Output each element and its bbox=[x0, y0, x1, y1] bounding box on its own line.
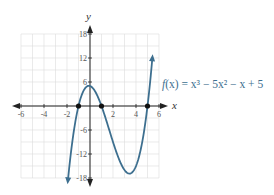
root-point bbox=[145, 103, 150, 108]
x-tick-label: -2 bbox=[64, 110, 71, 119]
y-tick-label: 18 bbox=[79, 30, 87, 39]
y-axis-up-arrow bbox=[87, 25, 93, 33]
y-axis-label: y bbox=[85, 10, 91, 22]
x-axis-left-arrow bbox=[12, 103, 20, 109]
x-tick-label: -4 bbox=[41, 110, 48, 119]
x-axis-right-arrow bbox=[160, 103, 168, 109]
x-tick-label: -6 bbox=[18, 110, 25, 119]
x-tick-label: 4 bbox=[134, 110, 138, 119]
function-equation-label: f(x) = x³ − 5x² − x + 5 bbox=[162, 78, 263, 90]
y-tick-label: 6 bbox=[83, 78, 87, 87]
curve-arrow-icon bbox=[65, 177, 71, 184]
x-axis-label: x bbox=[171, 99, 177, 111]
y-axis-down-arrow bbox=[87, 179, 93, 187]
y-tick-label: -18 bbox=[76, 174, 87, 183]
root-point bbox=[76, 103, 81, 108]
x-tick-label: 2 bbox=[111, 110, 115, 119]
y-tick-label: -6 bbox=[80, 126, 87, 135]
axes bbox=[12, 25, 168, 187]
polynomial-graph: -6-4-224618126-6-12-18 y x bbox=[0, 0, 274, 195]
root-point bbox=[99, 103, 104, 108]
curve-path bbox=[68, 58, 152, 180]
y-tick-label: 12 bbox=[79, 54, 87, 63]
y-tick-label: -12 bbox=[76, 150, 87, 159]
x-tick-label: 6 bbox=[157, 110, 161, 119]
